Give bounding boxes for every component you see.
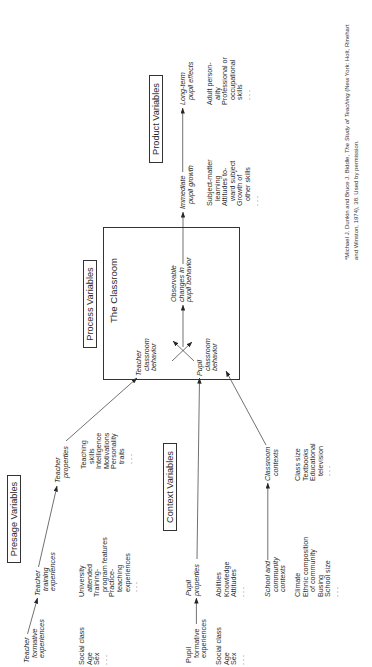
list-ellipsis: . . .: [238, 627, 246, 665]
pupil-formative-experiences-heading: Pupil formative experiences: [185, 619, 208, 663]
footnote-authors: *Michael J. Dunkin and Bruce J. Biddle,: [344, 153, 350, 260]
context-variables-label: Context Variables: [163, 443, 177, 531]
heading-line: contexts: [272, 447, 280, 481]
teacher-training-experiences-heading: Teacher training experiences: [34, 552, 57, 596]
product-variables-label: Product Variables: [149, 75, 163, 163]
classroom-contexts-items: Class size Textbooks Educational televis…: [294, 443, 332, 481]
immediate-growth-items: Subject-matter learning Attitudes to- wa…: [206, 159, 259, 206]
long-term-effects-items: Adult person- ality Professional or occu…: [206, 57, 252, 105]
teacher-formative-experiences-heading: Teacher formative experiences: [23, 619, 46, 663]
pupil-properties-items: Abilities Knowledge Attitudes . . .: [215, 561, 245, 597]
list-ellipsis: . . .: [332, 537, 340, 597]
heading-line: behavior: [150, 338, 158, 376]
heading-line: pupil growth: [187, 165, 195, 209]
school-community-contexts-heading: School and community contexts: [264, 557, 287, 597]
list-ellipsis: . . .: [244, 57, 252, 105]
long-term-pupil-effects-heading: Long-term pupil effects: [179, 62, 194, 105]
teacher-classroom-behavior: Teacher classroom behavior: [135, 338, 158, 376]
heading-line: experiences: [200, 619, 208, 663]
source-footnote: *Michael J. Dunkin and Bruce J. Biddle, …: [343, 24, 361, 260]
immediate-pupil-growth-heading: Immediate pupil growth: [179, 165, 194, 209]
teacher-properties-heading: Teacher properties: [54, 446, 69, 483]
classroom-box: [103, 227, 240, 380]
heading-line: contexts: [279, 557, 287, 597]
teacher-training-items: University attended Training- program fe…: [78, 537, 139, 597]
teacher-properties-items: Teaching skills Intelligence Motivations…: [80, 433, 133, 469]
arrow-teacher-properties-to-teacher-behavior: [66, 378, 137, 441]
list-ellipsis: . . .: [252, 159, 260, 206]
heading-line: pupil effects: [187, 62, 195, 105]
rotated-figure-page: Presage Variables Context Variables Proc…: [0, 0, 372, 667]
heading-line: pupil behavior: [185, 257, 193, 302]
list-ellipsis: . . .: [101, 627, 109, 665]
footnote-line-1: *Michael J. Dunkin and Bruce J. Biddle, …: [343, 24, 352, 260]
presage-variables-label: Presage Variables: [7, 475, 21, 563]
process-variables-label: Process Variables: [83, 260, 97, 348]
pupil-properties-heading: Pupil properties: [185, 564, 200, 596]
footnote-book-title: The Study of Teaching: [344, 93, 350, 153]
heading-line: properties: [62, 446, 70, 483]
classroom-contexts-heading: Classroom contexts: [264, 447, 279, 481]
pupil-classroom-behavior: Pupil classroom behavior: [196, 338, 219, 376]
arrow-pupil-properties-to-pupil-behavior: [197, 378, 200, 559]
heading-line: experiences: [49, 552, 57, 596]
list-ellipsis: . . .: [126, 433, 134, 469]
heading-line: behavior: [211, 338, 219, 376]
classroom-box-title: The Classroom: [108, 258, 120, 323]
teacher-formative-items: Social class Age Sex . . .: [78, 627, 108, 665]
footnote-line-2: and Winston, 1974), 38. Used by permissi…: [352, 24, 361, 260]
figure-viewport: Presage Variables Context Variables Proc…: [0, 0, 372, 667]
list-ellipsis: . . .: [324, 443, 332, 481]
footnote-publisher: (New York: Holt, Rinehart: [344, 24, 350, 93]
observable-changes-in-pupil-behavior: Observable changes in pupil behavior: [170, 257, 193, 302]
heading-line: properties: [193, 564, 201, 596]
list-ellipsis: . . .: [238, 561, 246, 597]
arrow-classroom-contexts-to-pupil-behavior: [226, 371, 266, 445]
heading-line: experiences: [38, 619, 46, 663]
school-community-items: Climate Ethnic composition of community …: [294, 537, 340, 597]
pupil-formative-items: Social class Age Sex . . .: [215, 627, 245, 665]
list-ellipsis: . . .: [131, 537, 139, 597]
